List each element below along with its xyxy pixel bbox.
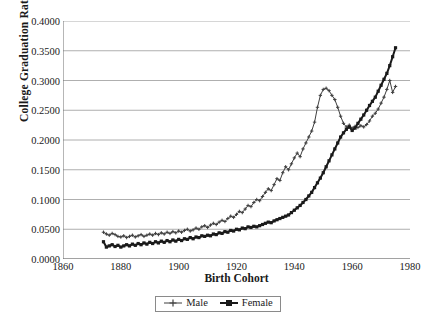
data-point	[171, 238, 174, 241]
data-point	[206, 234, 209, 237]
legend-swatch-male	[163, 298, 183, 308]
data-point	[148, 241, 151, 244]
data-point	[200, 234, 203, 237]
data-point	[258, 224, 261, 227]
data-point	[215, 233, 218, 236]
data-point	[180, 239, 183, 242]
series-male	[102, 79, 397, 239]
data-point	[232, 229, 235, 232]
data-point	[359, 118, 362, 121]
data-point	[275, 218, 278, 221]
legend-marker	[170, 300, 177, 307]
data-point	[235, 228, 238, 231]
x-tick-label: 1960	[322, 261, 382, 272]
data-point	[368, 104, 371, 107]
x-tick-label: 1920	[207, 261, 267, 272]
data-point	[238, 228, 241, 231]
chart-container: College Graduation Rates 0.00000.05000.1…	[0, 0, 436, 323]
data-point	[142, 241, 145, 244]
data-point	[255, 225, 258, 228]
data-point	[313, 186, 316, 189]
data-point	[113, 245, 116, 248]
data-point	[316, 106, 319, 109]
data-point	[168, 240, 171, 243]
data-point	[290, 162, 293, 165]
data-point	[310, 129, 313, 132]
series-line	[103, 48, 395, 247]
data-point	[391, 55, 394, 58]
data-point	[128, 244, 131, 247]
data-point	[177, 238, 180, 241]
legend-swatch-female	[219, 298, 239, 308]
plot-area	[63, 21, 410, 259]
data-point	[385, 88, 388, 91]
data-point	[284, 215, 287, 218]
data-point	[174, 240, 177, 243]
data-point	[345, 128, 348, 131]
x-tick-label: 1880	[91, 261, 151, 272]
data-point	[362, 113, 365, 116]
x-tick-label: 1860	[33, 261, 93, 272]
data-point	[333, 147, 336, 150]
data-point	[374, 96, 377, 99]
data-point	[319, 94, 322, 97]
legend-item-female[interactable]: Female	[219, 298, 273, 309]
data-point	[371, 100, 374, 103]
data-point	[160, 240, 163, 243]
data-point	[125, 243, 128, 246]
data-point	[388, 79, 391, 82]
chart-legend: MaleFemale	[0, 296, 436, 312]
data-point	[186, 238, 189, 241]
y-axis-tick-labels: 0.00000.05000.10000.15000.20000.25000.30…	[8, 0, 60, 323]
series-female	[102, 46, 397, 249]
data-point	[342, 131, 345, 134]
legend-item-male[interactable]: Male	[163, 298, 208, 309]
data-point	[316, 181, 319, 184]
data-point	[377, 90, 380, 93]
data-point	[264, 222, 267, 225]
data-point	[154, 240, 157, 243]
data-point	[272, 183, 275, 186]
data-point	[391, 91, 394, 94]
data-point	[241, 226, 244, 229]
data-point	[197, 236, 200, 239]
data-point	[330, 153, 333, 156]
data-point	[382, 95, 385, 98]
data-point	[327, 159, 330, 162]
legend-box: MaleFemale	[155, 296, 280, 312]
data-point	[145, 243, 148, 246]
data-point	[252, 225, 255, 228]
data-point	[304, 198, 307, 201]
data-point	[192, 237, 195, 240]
x-axis-title: Birth Cohort	[63, 272, 410, 284]
data-point	[183, 237, 186, 240]
data-point	[388, 64, 391, 67]
chart-svg	[63, 21, 410, 259]
legend-marker	[226, 300, 232, 306]
data-point	[287, 213, 290, 216]
data-point	[353, 127, 356, 130]
data-point	[272, 219, 275, 222]
data-point	[339, 135, 342, 138]
data-point	[116, 244, 119, 247]
data-point	[379, 101, 382, 104]
data-point	[325, 165, 328, 168]
data-point	[313, 120, 316, 123]
data-point	[244, 227, 247, 230]
data-point	[119, 246, 122, 249]
y-tick-label: 0.3000	[12, 75, 60, 86]
data-point	[102, 240, 105, 243]
x-tick-label: 1900	[149, 261, 209, 272]
y-tick-label: 0.3500	[12, 45, 60, 56]
data-point	[293, 209, 296, 212]
data-point	[122, 244, 125, 247]
data-point	[382, 78, 385, 81]
data-point	[339, 115, 342, 118]
y-tick-label: 0.4000	[12, 16, 60, 27]
data-point	[394, 46, 397, 49]
data-point	[108, 244, 111, 247]
data-point	[267, 221, 270, 224]
data-point	[189, 236, 192, 239]
data-point	[310, 191, 313, 194]
x-tick-label: 1940	[264, 261, 324, 272]
